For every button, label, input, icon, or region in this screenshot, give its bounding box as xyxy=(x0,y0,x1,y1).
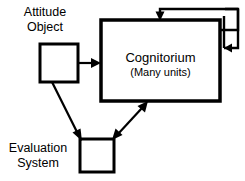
label-attitude-object: Attitude Object xyxy=(12,5,78,35)
edge-cognitorium-evaluation xyxy=(112,101,148,140)
label-evaluation-system: Evaluation System xyxy=(1,141,75,171)
edge-attitude-to-evaluation xyxy=(52,82,82,141)
label-cognitorium-main: Cognitorium xyxy=(104,50,217,65)
edge-attitude-to-cognitorium xyxy=(78,58,101,68)
label-evaluation-system-line2: System xyxy=(1,156,75,171)
arrowhead-attitude-to-evaluation xyxy=(73,129,83,142)
diagram-canvas: Attitude Object Cognitorium (Many units)… xyxy=(0,0,245,181)
label-attitude-object-line1: Attitude xyxy=(12,5,78,20)
label-cognitorium-sub: (Many units) xyxy=(104,65,217,80)
node-evaluation-system-box[interactable] xyxy=(80,139,114,172)
edge-cognitorium-self-loop-right xyxy=(220,9,238,53)
label-evaluation-system-line1: Evaluation xyxy=(1,141,75,156)
label-attitude-object-line2: Object xyxy=(12,20,78,35)
node-attitude-object-box[interactable] xyxy=(40,44,78,82)
label-cognitorium: Cognitorium (Many units) xyxy=(104,50,217,80)
